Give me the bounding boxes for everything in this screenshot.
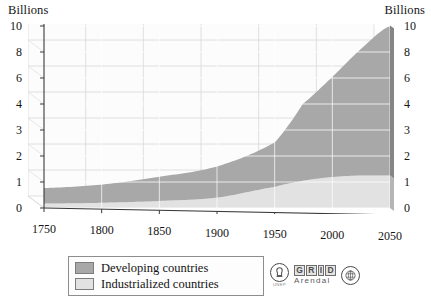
y-tick-label-right-3: 3: [404, 124, 410, 136]
y-tick-label-right-1: 1: [404, 176, 410, 188]
y-tick-label-left-10: 10: [10, 20, 22, 32]
chart-legend: Developing countries Industrialized coun…: [68, 256, 264, 296]
grid-word: G R I D: [294, 265, 336, 276]
un-emblem-icon: [341, 266, 360, 285]
y-tick-label-right-8: 8: [404, 46, 410, 58]
unep-label: UNEP: [273, 282, 286, 287]
x-tick-label-2000: 2000: [320, 228, 344, 243]
y-tick-label-right-4: 4: [404, 98, 410, 110]
x-tick-label-1850: 1850: [147, 224, 171, 239]
legend-item-industrialized: Industrialized countries: [75, 276, 258, 292]
x-tick-label-1950: 1950: [263, 227, 287, 242]
y-tick-label-left-4: 4: [16, 98, 22, 110]
grid-letter-g: G: [294, 265, 305, 276]
y-tick-label-right-2: 2: [404, 150, 410, 162]
y-tick-label-left-8: 8: [16, 46, 22, 58]
plot-area: [28, 24, 394, 214]
logo-bar: UNEP G R I D Arendal: [270, 262, 360, 288]
y-tick-label-left-6: 6: [16, 72, 22, 84]
y-axis-left: 012346810: [0, 24, 22, 214]
area-chart-canvas: [28, 24, 394, 214]
arendal-label: Arendal: [294, 276, 331, 285]
y-tick-label-left-0: 0: [16, 202, 22, 214]
x-axis: 1750180018501900195020002050: [0, 222, 431, 240]
right-axis-unit-label: Billions: [385, 3, 425, 18]
x-tick-label-1900: 1900: [205, 226, 229, 241]
unep-glyph-icon: [271, 264, 288, 281]
y-tick-label-left-3: 3: [16, 124, 22, 136]
grid-letter-r: R: [306, 265, 317, 276]
unep-circle-icon: [270, 263, 289, 282]
y-tick-label-right-10: 10: [404, 20, 416, 32]
y-axis-right: 012346810: [404, 24, 430, 214]
un-emblem-glyph-icon: [342, 267, 359, 284]
y-tick-label-left-1: 1: [16, 176, 22, 188]
y-tick-label-right-6: 6: [404, 72, 410, 84]
legend-swatch-developing: [75, 262, 94, 274]
legend-swatch-industrialized: [75, 278, 94, 290]
legend-label-developing: Developing countries: [101, 261, 208, 276]
grid-letter-i: I: [318, 265, 325, 276]
x-tick-label-2050: 2050: [378, 229, 402, 244]
grid-letter-d: D: [325, 265, 336, 276]
x-tick-label-1800: 1800: [90, 223, 114, 238]
left-axis-unit-label: Billions: [8, 3, 48, 18]
legend-label-industrialized: Industrialized countries: [101, 277, 219, 292]
y-tick-label-right-0: 0: [404, 202, 410, 214]
x-tick-label-1750: 1750: [32, 222, 56, 237]
legend-item-developing: Developing countries: [75, 260, 258, 276]
unep-logo: UNEP: [270, 263, 289, 288]
population-growth-chart-figure: Billions Billions 012346810 012346810 17…: [0, 0, 431, 307]
grid-arendal-logo: G R I D Arendal: [294, 265, 336, 286]
y-tick-label-left-2: 2: [16, 150, 22, 162]
